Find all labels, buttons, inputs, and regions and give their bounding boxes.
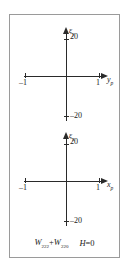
x-ticklabel-negative-1: –1 [19,78,27,87]
y-axis-line [66,33,67,121]
figure-caption: W222+W220 H=0 [10,230,119,256]
x-ticklabel-positive-1: 1 [96,183,100,192]
x-axis-label-subscript: p [111,185,114,191]
aberration-first-symbol: W [34,237,41,247]
y-axis-label: εx [69,131,75,142]
field-condition-label: H=0 [79,238,94,248]
y-tick-positive-20 [64,39,69,40]
y-tick-negative-20 [64,221,69,222]
field-condition-value: 0 [90,238,94,248]
x-axis-label: xp [107,180,113,191]
x-ticklabel-positive-1: 1 [96,78,100,87]
y-tick-positive-20 [64,144,69,145]
x-axis-label-subscript: p [111,80,114,86]
y-axis-line [66,138,67,226]
x-axis-label: yp [107,75,113,86]
y-tick-negative-20 [64,116,69,117]
y-ticklabel-negative-20: –20 [70,216,82,225]
x-axis-line [24,76,102,77]
plot-panel-top: 20 –20 –1 1 εy yp [10,19,119,125]
x-axis-line [24,181,102,182]
aberration-first-subscript: 222 [42,244,50,249]
y-axis-label: εy [69,26,75,37]
y-axis-label-subscript: x [72,136,74,142]
y-ticklabel-negative-20: –20 [70,111,82,120]
aberration-second-symbol: W [54,237,61,247]
plot-panel-bottom: 20 –20 –1 1 εx xp [10,124,119,230]
figure-frame: 20 –20 –1 1 εy yp 20 –20 –1 1 [9,14,120,258]
y-axis-label-subscript: y [72,31,74,37]
figure-root: 20 –20 –1 1 εy yp 20 –20 –1 1 [0,0,130,271]
x-ticklabel-negative-1: –1 [19,183,27,192]
aberration-terms-label: W222+W220 [34,237,68,249]
aberration-second-subscript: 220 [61,244,69,249]
